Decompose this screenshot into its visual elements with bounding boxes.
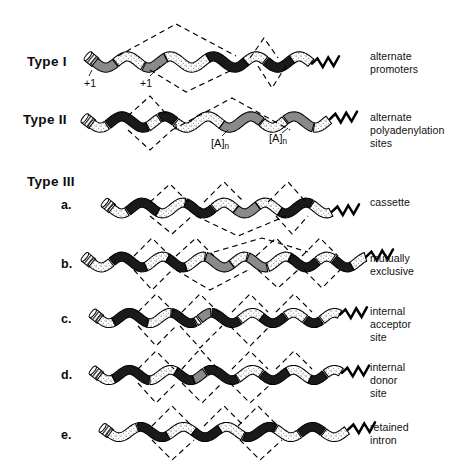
tss-label-2: +1 [140,77,152,89]
polyadenylation-label-1: [A]n [211,137,229,151]
transcript-row-type-3-b [80,238,393,290]
transcript-row-type-3-e [98,406,375,460]
polya-subscript-1: n [224,142,229,151]
polya-subscript-2: n [282,137,287,146]
tss-label-1: +1 [84,77,96,89]
row-right-label-type-1: alternate promoters [370,50,418,76]
row-sub-label-b: b. [61,257,72,271]
row-sub-label-a: a. [61,198,71,212]
row-sub-label-e: e. [61,428,71,442]
row-right-label-type-2: alternate polyadenylation sites [370,111,444,151]
row-sub-label-c: c. [61,312,71,326]
row-type-label-type-2: Type II [23,112,67,127]
row-right-label-mutually-exclusive: mutually exclusive [370,252,414,278]
row-right-label-cassette: cassette [370,196,410,209]
row-right-label-internal-acceptor: internal acceptor site [370,305,411,345]
transcript-row-type-3-d [88,349,369,403]
row-sub-label-d: d. [61,368,72,382]
transcript-row-type-3-c [88,294,367,348]
polya-bracket-text-2: [A] [269,132,282,144]
polyadenylation-label-2: [A]n [269,132,287,146]
alternative-splicing-figure: Type I Type II Type III a. b. c. d. e. a… [0,0,467,471]
row-right-label-retained-intron: retained intron [370,421,409,447]
row-right-label-internal-donor: internal donor site [370,361,405,401]
row-type-label-type-3: Type III [27,174,75,189]
row-type-label-type-1: Type I [27,54,67,69]
transcript-row-type-3-a [100,182,359,236]
polya-bracket-text-1: [A] [211,137,224,149]
transcript-row-type-1 [83,24,339,92]
